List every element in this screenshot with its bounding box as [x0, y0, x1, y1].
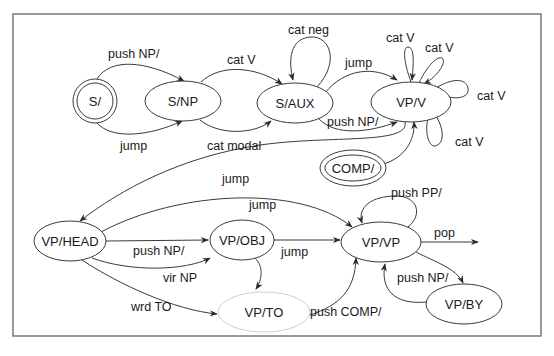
node-label: S/NP [168, 94, 198, 109]
edge-vphead-vpobj-pushnp [106, 240, 208, 241]
atn-diagram: push NP/ jump cat V cat modal cat neg ju… [0, 0, 554, 356]
edge-label: cat V [455, 135, 484, 149]
edge-saux-self-catneg [291, 37, 331, 87]
edge-vphead-vpobj-virnp [92, 258, 210, 268]
node-label: S/AUX [275, 96, 314, 111]
node-label: VP/V [396, 95, 426, 110]
edge-label: push NP/ [397, 271, 449, 285]
edge-snp-saux-catmodal [200, 120, 271, 131]
edge-label: push COMP/ [310, 305, 382, 319]
edge-label: push NP/ [108, 47, 160, 61]
edge-s-snp-jump [97, 121, 182, 134]
node-comp: COMP/ [320, 150, 386, 186]
node-vphead: VP/HEAD [34, 221, 106, 261]
node-vpobj: VP/OBJ [210, 220, 274, 260]
edge-label: wrd TO [130, 300, 172, 314]
edge-label: push NP/ [133, 244, 185, 258]
node-snp: S/NP [145, 81, 221, 121]
node-label: S/ [89, 94, 102, 109]
node-saux: S/AUX [257, 83, 333, 123]
edge-label: jump [248, 198, 276, 212]
edge-label: pop [434, 226, 455, 240]
edge-label: cat V [227, 53, 256, 67]
node-vpvp: VP/VP [341, 222, 421, 262]
edge-vpv-self-catv-1 [405, 47, 414, 82]
node-vpto: VP/TO [218, 292, 310, 332]
edge-label: cat neg [288, 23, 329, 37]
node-s: S/ [73, 79, 117, 123]
edge-snp-saux-catv [201, 69, 282, 84]
node-label: VP/BY [445, 297, 484, 312]
edge-label: cat modal [207, 139, 261, 153]
edge-label: jump [344, 56, 372, 70]
node-label: COMP/ [332, 161, 375, 176]
edge-label: jump [280, 245, 308, 259]
edge-label: jump [119, 139, 147, 153]
edge-vpobj-vpto [255, 258, 261, 289]
node-label: VP/TO [245, 305, 284, 320]
edge-label: jump [221, 172, 249, 186]
edge-s-snp-push [97, 64, 184, 81]
node-vpv: VP/V [371, 82, 451, 122]
node-label: VP/VP [362, 235, 400, 250]
edge-label: cat V [386, 31, 415, 45]
edge-vpv-self-catv-2 [419, 58, 443, 84]
edge-label: push PP/ [391, 186, 442, 200]
node-vpby: VP/BY [426, 284, 502, 324]
node-label: VP/OBJ [219, 233, 265, 248]
edge-label: cat V [425, 41, 454, 55]
edge-label: vir NP [163, 271, 197, 285]
edge-label: push NP/ [327, 115, 379, 129]
node-label: VP/HEAD [41, 234, 98, 249]
edge-label: cat V [477, 89, 506, 103]
edge-comp-vpv [383, 122, 414, 164]
